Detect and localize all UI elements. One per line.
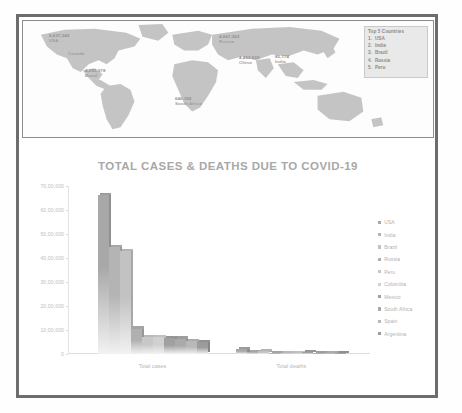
chart-legend[interactable]: USAIndiaBrazilRussiaPeruColombiaMexicoSo… — [378, 216, 434, 340]
y-axis-tick-label: 30,00,000 — [40, 279, 64, 285]
chart-legend-item[interactable]: Colombia — [378, 278, 434, 290]
chart-legend-item[interactable]: Russia — [378, 253, 434, 265]
top5-country: Russia — [375, 58, 390, 63]
bar-face — [302, 352, 313, 354]
legend-label: Colombia — [384, 281, 406, 287]
bar[interactable] — [98, 195, 109, 354]
y-axis-tick-mark — [66, 330, 68, 331]
x-axis-category-label: Total cases — [139, 363, 167, 369]
legend-label: Russia — [384, 256, 400, 262]
chart-legend-item[interactable]: South Africa — [378, 303, 434, 315]
top5-item: 3.Brazil — [368, 49, 424, 56]
legend-swatch — [378, 295, 381, 298]
bar-face — [153, 337, 164, 354]
bar[interactable] — [186, 341, 197, 354]
bar-face — [335, 353, 346, 354]
y-axis-tick-label: 60,00,000 — [40, 207, 64, 213]
legend-label: Spain — [384, 318, 397, 324]
bar-top — [111, 245, 122, 247]
chart-legend-item[interactable]: Brazil — [378, 241, 434, 253]
legend-swatch — [378, 221, 381, 224]
bar-top — [155, 335, 166, 337]
top5-rank: 4. — [368, 57, 375, 64]
bar[interactable] — [142, 337, 153, 354]
top5-item: 4.Russia — [368, 57, 424, 64]
bar[interactable] — [269, 353, 280, 354]
bar[interactable] — [197, 342, 208, 354]
legend-label: India — [384, 232, 395, 238]
chart-legend-item[interactable]: Mexico — [378, 290, 434, 302]
bar[interactable] — [153, 337, 164, 354]
bar-top — [261, 349, 272, 351]
chart-legend-item[interactable]: India — [378, 228, 434, 240]
y-axis-line — [68, 186, 69, 354]
bar[interactable] — [109, 247, 120, 354]
top5-item: 1.USA — [368, 35, 424, 42]
bar-face — [280, 353, 291, 354]
y-axis-tick-label: 0 — [61, 351, 64, 357]
bar[interactable] — [120, 251, 131, 354]
y-axis-tick-mark — [66, 186, 68, 187]
x-axis-category-label: Total deaths — [277, 363, 307, 369]
bar-face — [247, 352, 258, 354]
bar[interactable] — [164, 338, 175, 354]
top5-title: Top 5 Countries — [368, 29, 424, 34]
bar-group — [98, 186, 208, 354]
legend-label: USA — [384, 219, 395, 225]
bar-chart-panel[interactable]: TOTAL CASES & DEATHS DUE TO COVID-19 010… — [22, 146, 434, 390]
bar[interactable] — [324, 353, 335, 354]
bar[interactable] — [131, 329, 142, 354]
legend-label: Argentina — [384, 331, 406, 337]
bar-top — [338, 351, 349, 353]
bar[interactable] — [280, 353, 291, 354]
legend-label: Peru — [384, 269, 395, 275]
bar-face — [291, 353, 302, 354]
chart-legend-item[interactable]: Argentina — [378, 328, 434, 340]
bar[interactable] — [175, 339, 186, 355]
top5-item: 5.Peru — [368, 64, 424, 71]
chart-plot-area: 010,00,00020,00,00030,00,00040,00,00050,… — [68, 186, 370, 354]
top5-item: 2.India — [368, 42, 424, 49]
bar[interactable] — [291, 353, 302, 354]
top5-rank: 3. — [368, 49, 375, 56]
chart-legend-item[interactable]: Peru — [378, 266, 434, 278]
top5-list: 1.USA 2.India 3.Brazil 4.Russia 5.Peru — [368, 35, 424, 71]
y-axis-tick-mark — [66, 258, 68, 259]
y-axis-tick-mark — [66, 210, 68, 211]
bar-face — [236, 349, 247, 354]
bar-top — [177, 336, 188, 338]
y-axis-tick-mark — [66, 234, 68, 235]
bar[interactable] — [258, 351, 269, 354]
bar-face — [98, 195, 109, 354]
bar-face — [197, 342, 208, 354]
legend-swatch — [378, 245, 381, 248]
bar-group — [236, 186, 346, 354]
y-axis-tick-mark — [66, 306, 68, 307]
y-axis-tick-label: 70,00,000 — [40, 183, 64, 189]
map-label-india: 85,174 India — [275, 54, 289, 64]
map-label-canada: Canada — [68, 51, 84, 56]
legend-label: Brazil — [384, 244, 397, 250]
bar-face — [131, 329, 142, 354]
bar-face — [186, 341, 197, 354]
bar-face — [109, 247, 120, 354]
bar[interactable] — [247, 352, 258, 354]
bar-face — [324, 353, 335, 354]
y-axis-tick-label: 20,00,000 — [40, 303, 64, 309]
legend-swatch — [378, 283, 381, 286]
bar-face — [269, 353, 280, 354]
legend-swatch — [378, 258, 381, 261]
bar-face — [175, 339, 186, 355]
bar[interactable] — [236, 349, 247, 354]
top5-country: Brazil — [375, 50, 388, 55]
bar[interactable] — [302, 352, 313, 354]
chart-legend-item[interactable]: USA — [378, 216, 434, 228]
chart-legend-item[interactable]: Spain — [378, 315, 434, 327]
bar[interactable] — [313, 353, 324, 354]
bar[interactable] — [335, 353, 346, 354]
top5-rank: 2. — [368, 42, 375, 49]
legend-swatch — [378, 270, 381, 273]
bar-top — [305, 350, 316, 352]
world-map-panel[interactable]: 6,637,340 USA Canada 4,283,978 Brazil 4,… — [22, 20, 434, 138]
bar-face — [164, 338, 175, 354]
